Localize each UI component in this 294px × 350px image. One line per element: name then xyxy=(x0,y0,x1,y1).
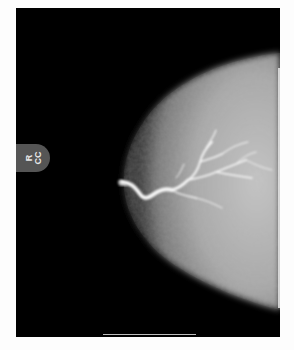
breast-tissue-render xyxy=(16,8,280,337)
right-edge-artifact xyxy=(278,68,280,308)
mammogram-image: R CC xyxy=(16,8,280,337)
scale-bar xyxy=(103,334,196,335)
view-label: CC xyxy=(33,152,42,165)
